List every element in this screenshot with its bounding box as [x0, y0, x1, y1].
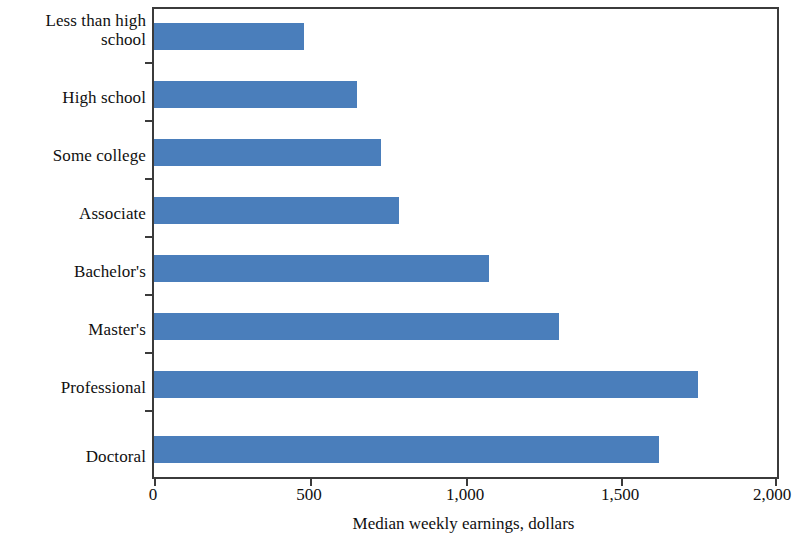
category-label-high-school: High school	[0, 88, 146, 107]
category-label-text: Associate	[79, 204, 146, 223]
category-label-professional: Professional	[0, 378, 146, 397]
bar-doctoral	[154, 436, 659, 463]
category-label-less-than-high-school: Less than high school	[0, 11, 146, 49]
y-axis-tick	[145, 294, 154, 296]
x-axis-tick-label-0: 0	[93, 484, 213, 506]
tick-label-text: 1,000	[446, 485, 484, 504]
x-axis-tick-label-1500: 1,500	[560, 484, 680, 506]
tick-label-text: 500	[296, 485, 322, 504]
bar-bachelors	[154, 255, 489, 282]
tick-label-text: 2,000	[753, 485, 791, 504]
x-axis-tick-label-500: 500	[249, 484, 369, 506]
tick-label-text: 1,500	[601, 485, 639, 504]
category-label-text: Some college	[53, 146, 146, 165]
category-label-text: Master's	[88, 320, 146, 339]
category-label-some-college: Some college	[0, 146, 146, 165]
bar-chart: Less than high school High school Some c…	[0, 0, 801, 550]
category-label-associate: Associate	[0, 204, 146, 223]
bar-professional	[154, 371, 698, 398]
category-label-text: Professional	[61, 378, 146, 397]
bars-layer	[154, 9, 777, 477]
bar-high-school	[154, 81, 357, 108]
y-axis-tick	[145, 410, 154, 412]
y-axis-tick	[145, 352, 154, 354]
category-label-masters: Master's	[0, 320, 146, 339]
x-axis-title: Median weekly earnings, dollars	[152, 513, 775, 535]
category-label-bachelors: Bachelor's	[0, 262, 146, 281]
plot-area	[152, 7, 779, 479]
bar-masters	[154, 313, 559, 340]
category-label-text: Doctoral	[86, 447, 146, 466]
x-axis-tick-label-2000: 2,000	[712, 484, 801, 506]
bar-less-than-high-school	[154, 23, 304, 50]
category-label-text: Less than high school	[45, 11, 146, 49]
y-axis-tick	[145, 120, 154, 122]
x-axis-tick-labels: 0 500 1,000 1,500 2,000	[0, 484, 801, 510]
bar-associate	[154, 197, 399, 224]
y-axis-tick	[145, 178, 154, 180]
category-label-doctoral: Doctoral	[0, 447, 146, 466]
bar-some-college	[154, 139, 381, 166]
y-axis-tick	[145, 62, 154, 64]
x-axis-tick-label-1000: 1,000	[405, 484, 525, 506]
category-label-text: High school	[62, 88, 146, 107]
y-axis-category-labels: Less than high school High school Some c…	[0, 7, 146, 475]
y-axis-tick	[145, 236, 154, 238]
tick-label-text: 0	[149, 485, 158, 504]
category-label-text: Bachelor's	[74, 262, 146, 281]
